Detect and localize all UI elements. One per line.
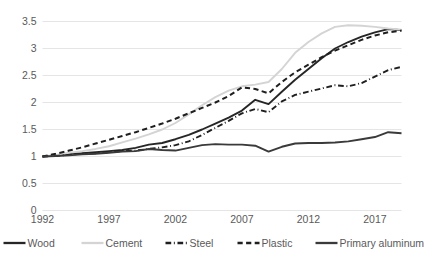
y-tick-label: 2.5: [22, 69, 37, 81]
legend-label-cement: Cement: [106, 237, 143, 249]
y-tick-label: 1.5: [22, 123, 37, 135]
legend-label-steel: Steel: [190, 237, 214, 249]
y-tick-label: 1: [31, 150, 37, 162]
x-tick-label: 2012: [297, 213, 321, 225]
y-tick-label: 3: [31, 42, 37, 54]
y-tick-label: 3.5: [22, 15, 37, 27]
line-chart: 00.511.522.533.5 19921997200220072012201…: [0, 0, 431, 263]
y-tick-label: 2: [31, 96, 37, 108]
gridlines: [43, 22, 402, 211]
x-tick-label: 2007: [230, 213, 254, 225]
legend-label-primary-aluminum: Primary aluminum: [340, 237, 425, 249]
y-tick-label: 0.5: [22, 177, 37, 189]
legend-label-plastic: Plastic: [262, 237, 293, 249]
x-tick-label: 2017: [363, 213, 387, 225]
legend-label-wood: Wood: [28, 237, 55, 249]
y-axis-tick-labels: 00.511.522.533.5: [22, 15, 37, 216]
data-series-group: [43, 25, 402, 156]
chart-legend: WoodCementSteelPlasticPrimary aluminum: [4, 237, 425, 249]
series-line-cement: [43, 25, 402, 156]
x-tick-label: 1992: [31, 213, 55, 225]
x-tick-label: 1997: [97, 213, 121, 225]
x-axis-tick-labels: 199219972002200720122017: [31, 213, 387, 225]
chart-canvas: 00.511.522.533.5 19921997200220072012201…: [0, 0, 431, 263]
x-tick-label: 2002: [164, 213, 188, 225]
